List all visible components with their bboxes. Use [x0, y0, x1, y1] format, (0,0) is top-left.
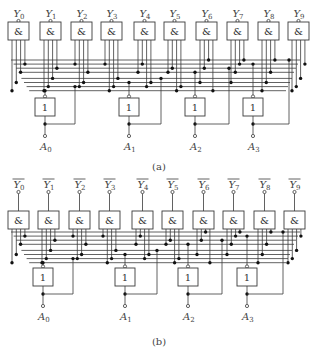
output-terminal-icon — [171, 190, 174, 193]
junction-dot — [86, 71, 89, 74]
junction-dot — [10, 261, 13, 264]
output-label-Y7: Y7 — [233, 8, 244, 21]
input-subscript: 1 — [131, 146, 135, 154]
input-subscript: 0 — [45, 316, 49, 324]
junction-dot — [73, 62, 76, 65]
junction-dot — [15, 253, 18, 256]
junction-dot — [101, 234, 104, 237]
and-gate-symbol: & — [105, 215, 114, 226]
and-gate-symbol: & — [138, 215, 147, 226]
output-label-Y9: Y9 — [294, 8, 305, 21]
output-subscript: 5 — [174, 184, 178, 192]
output-subscript: 1 — [52, 13, 56, 21]
not-gate-symbol: 1 — [244, 272, 250, 283]
and-gate-symbol: & — [202, 26, 211, 37]
junction-dot — [108, 89, 111, 92]
junction-dot — [103, 62, 106, 65]
output-label-Y3: Y3 — [105, 179, 116, 192]
junction-dot — [80, 253, 83, 256]
output-subscript: 8 — [270, 13, 274, 21]
input-subscript: 3 — [249, 316, 253, 324]
output-terminal-icon — [202, 190, 205, 193]
junction-dot — [204, 230, 207, 233]
junction-dot — [225, 253, 228, 256]
panel-caption: (a) — [152, 161, 166, 172]
junction-dot — [51, 77, 54, 80]
and-gate-symbol: & — [77, 26, 86, 37]
and-gate-symbol: & — [233, 26, 242, 37]
input-subscript: 2 — [197, 146, 201, 154]
junction-dot — [261, 253, 264, 256]
output-label-Y2: Y2 — [75, 179, 86, 192]
output-terminal-icon — [108, 190, 111, 193]
junction-dot — [45, 257, 48, 260]
junction-dot — [290, 89, 293, 92]
output-label-Y4: Y4 — [138, 179, 150, 192]
junction-dot — [238, 62, 241, 65]
and-gate-symbol: & — [46, 26, 55, 37]
junction-dot — [177, 257, 180, 260]
junction-dot — [299, 234, 302, 237]
input-terminal-icon — [193, 134, 196, 137]
output-label-Y2: Y2 — [77, 8, 88, 21]
input-label-A1: A1 — [119, 311, 132, 324]
output-subscript: 8 — [266, 184, 270, 192]
output-subscript: 4 — [146, 13, 151, 21]
junction-dot — [175, 89, 178, 92]
junction-dot — [295, 249, 298, 252]
output-terminal-icon — [141, 190, 144, 193]
output-label-Y8: Y8 — [260, 179, 271, 192]
junction-dot — [211, 89, 214, 92]
junction-dot — [76, 257, 79, 260]
junction-dot — [164, 243, 167, 246]
input-label-A2: A2 — [182, 311, 195, 324]
input-terminal-icon — [245, 304, 248, 307]
not-gate-symbol: 1 — [192, 102, 198, 113]
output-subscript: 6 — [205, 184, 210, 192]
junction-dot — [260, 89, 263, 92]
junction-dot — [127, 81, 130, 84]
junction-dot — [10, 89, 13, 92]
junction-dot — [291, 257, 294, 260]
junction-dot — [134, 243, 137, 246]
junction-dot — [265, 81, 268, 84]
junction-dot — [198, 81, 201, 84]
output-terminal-icon — [263, 190, 266, 193]
output-label-Y9: Y9 — [290, 179, 301, 192]
input-label-A0: A0 — [39, 141, 52, 154]
output-label-Y1: Y1 — [46, 8, 57, 21]
output-subscript: 9 — [300, 13, 304, 21]
input-terminal-icon — [127, 134, 130, 137]
junction-dot — [136, 71, 139, 74]
output-terminal-icon — [17, 190, 20, 193]
output-subscript: 1 — [50, 184, 54, 192]
junction-dot — [41, 261, 44, 264]
and-gate-symbol: & — [290, 215, 299, 226]
junction-dot — [229, 81, 232, 84]
output-label-Y5: Y5 — [168, 179, 179, 192]
junction-dot — [269, 230, 272, 233]
junction-dot — [273, 58, 276, 61]
panel-a: Y0&Y1&Y2&Y3&Y4&Y5&Y6&Y7&Y8&Y9&1A01A11A21… — [8, 8, 309, 172]
output-subscript: 3 — [111, 184, 115, 192]
junction-dot — [123, 253, 126, 256]
junction-dot — [159, 77, 162, 80]
and-gate-symbol: & — [14, 26, 23, 37]
output-label-Y6: Y6 — [202, 8, 214, 21]
junction-dot — [155, 249, 158, 252]
junction-dot — [71, 234, 74, 237]
junction-dot — [203, 67, 206, 70]
panel-caption: (b) — [152, 336, 166, 347]
not-gate-symbol: 1 — [250, 102, 256, 113]
decoder-figure: Y0&Y1&Y2&Y3&Y4&Y5&Y6&Y7&Y8&Y9&1A01A11A21… — [0, 0, 318, 351]
junction-dot — [245, 234, 248, 237]
junction-dot — [43, 89, 46, 92]
output-label-Y8: Y8 — [264, 8, 275, 21]
not-gate-symbol: 1 — [122, 272, 128, 283]
junction-dot — [110, 257, 113, 260]
output-terminal-icon — [232, 190, 235, 193]
input-subscript: 2 — [190, 316, 194, 324]
not-gate-symbol: 1 — [42, 102, 48, 113]
output-subscript: 7 — [239, 13, 243, 21]
junction-dot — [234, 234, 237, 237]
